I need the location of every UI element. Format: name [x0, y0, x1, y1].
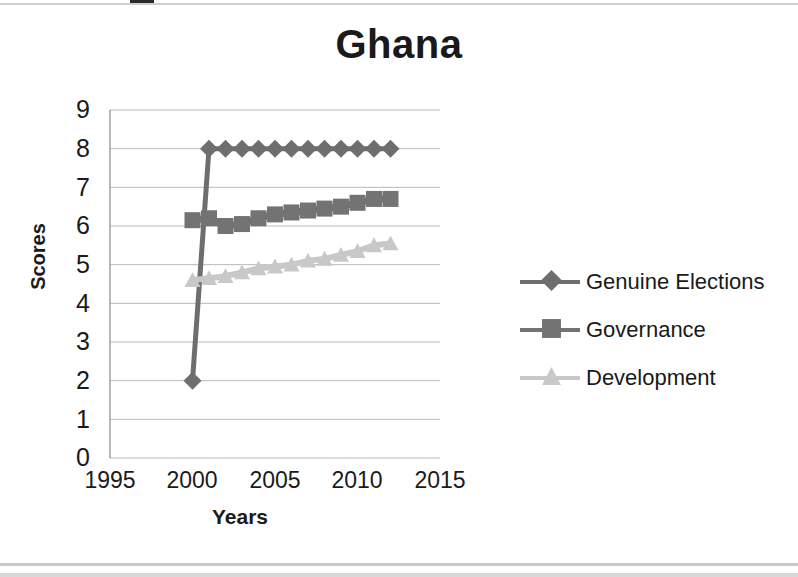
- legend-label-development: Development: [586, 367, 716, 389]
- x-tick-2015: 2015: [395, 469, 485, 492]
- y-tick-3: 3: [62, 329, 90, 354]
- x-tick-2010: 2010: [312, 469, 402, 492]
- chart-legend: Genuine Elections Governance Development: [520, 258, 795, 402]
- scan-artifact-bottom-rule: [0, 563, 798, 566]
- y-axis-label: Scores: [27, 197, 50, 317]
- y-tick-4: 4: [62, 291, 90, 316]
- triangle-marker-icon: [541, 366, 562, 387]
- x-tick-2005: 2005: [230, 469, 320, 492]
- legend-item-genuine-elections[interactable]: Genuine Elections: [520, 258, 795, 306]
- y-tick-5: 5: [62, 252, 90, 277]
- diamond-marker-icon: [541, 270, 562, 291]
- legend-label-genuine-elections: Genuine Elections: [586, 271, 765, 293]
- y-tick-8: 8: [62, 136, 90, 161]
- x-axis-label: Years: [130, 505, 350, 529]
- chart-figure: Ghana 9 8 7 6 5 4 3 2 1 0 1995 2000 2005…: [0, 0, 798, 577]
- legend-swatch-genuine-elections: [520, 270, 580, 294]
- scan-artifact-bottom-edge: [0, 573, 798, 577]
- legend-swatch-governance: [520, 318, 580, 342]
- x-tick-2000: 2000: [147, 469, 237, 492]
- legend-swatch-development: [520, 366, 580, 390]
- square-marker-icon: [541, 318, 562, 339]
- y-tick-6: 6: [62, 213, 90, 238]
- data-series-layer: [184, 140, 400, 390]
- gridlines: [110, 110, 440, 458]
- y-tick-2: 2: [62, 368, 90, 393]
- y-tick-9: 9: [62, 97, 90, 122]
- legend-label-governance: Governance: [586, 319, 706, 341]
- legend-item-development[interactable]: Development: [520, 354, 795, 402]
- legend-item-governance[interactable]: Governance: [520, 306, 795, 354]
- y-tick-7: 7: [62, 175, 90, 200]
- x-tick-1995: 1995: [65, 469, 155, 492]
- y-tick-1: 1: [62, 407, 90, 432]
